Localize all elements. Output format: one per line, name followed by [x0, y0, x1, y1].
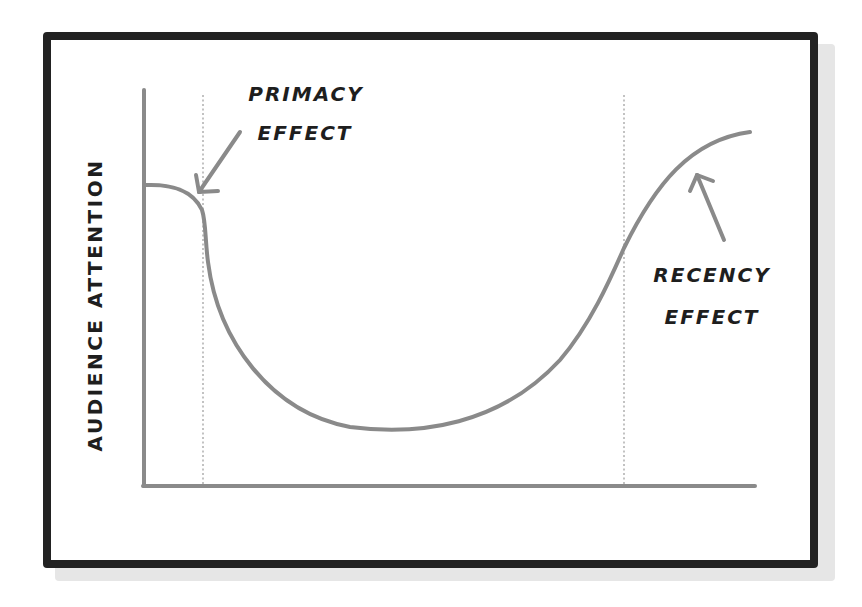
primacy-label-line2: EFFECT — [258, 123, 353, 143]
y-axis-label: AUDIENCE ATTENTION — [85, 159, 105, 452]
recency-arrow-icon — [690, 175, 724, 240]
primacy-label-line1: PRIMACY — [248, 84, 363, 104]
recency-label-line1: RECENCY — [653, 265, 770, 285]
recency-label-line2: EFFECT — [665, 307, 760, 327]
attention-curve-chart — [0, 0, 862, 607]
